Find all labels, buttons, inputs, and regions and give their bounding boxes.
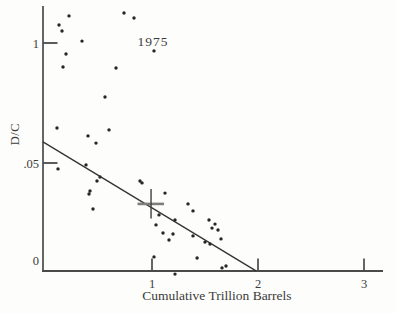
data-point	[86, 134, 89, 137]
data-point	[195, 256, 198, 259]
y-tick-label: 1	[33, 37, 39, 51]
data-point	[61, 65, 64, 68]
trend-line-segment	[43, 142, 256, 271]
data-point	[213, 222, 216, 225]
data-point	[220, 266, 223, 269]
data-point	[84, 163, 87, 166]
y-tick-label: 0	[33, 254, 39, 268]
scatter-plot: 123 1.050 1975 D/C Cumulative Trillion B…	[0, 0, 396, 313]
data-point	[88, 189, 91, 192]
annotation-1975: 1975	[138, 34, 169, 49]
y-tick-label: .05	[23, 157, 39, 171]
data-point	[224, 264, 227, 267]
y-axis-ticks: 1.050	[23, 37, 57, 269]
data-point	[152, 49, 155, 52]
x-tick-label: 3	[361, 277, 367, 291]
data-point	[122, 11, 125, 14]
data-point	[157, 213, 160, 216]
x-axis-ticks: 123	[149, 259, 367, 292]
data-point	[216, 228, 219, 231]
data-point	[80, 39, 83, 42]
chart-page: 123 1.050 1975 D/C Cumulative Trillion B…	[0, 0, 396, 313]
data-point	[219, 237, 222, 240]
data-point	[55, 126, 58, 129]
data-point	[163, 191, 166, 194]
data-point	[191, 209, 194, 212]
data-point	[91, 207, 94, 210]
trend-line	[43, 142, 256, 271]
data-point	[154, 223, 157, 226]
data-point	[167, 238, 170, 241]
axes	[42, 6, 383, 271]
data-point	[64, 52, 67, 55]
data-point	[171, 232, 174, 235]
y-axis-title: D/C	[8, 123, 22, 145]
data-point	[57, 23, 60, 26]
data-point	[186, 202, 189, 205]
data-point	[114, 66, 117, 69]
data-point	[56, 167, 59, 170]
data-point	[107, 128, 110, 131]
data-point	[191, 234, 194, 237]
data-point	[173, 272, 176, 275]
data-point	[207, 218, 210, 221]
data-point	[161, 231, 164, 234]
data-point	[210, 226, 213, 229]
data-point	[95, 179, 98, 182]
data-point	[132, 16, 135, 19]
scatter-points	[55, 11, 227, 276]
data-point	[103, 95, 106, 98]
x-axis-title: Cumulative Trillion Barrels	[142, 288, 291, 303]
data-point	[67, 14, 70, 17]
data-point	[87, 192, 90, 195]
data-point	[140, 181, 143, 184]
data-point	[94, 141, 97, 144]
data-point	[60, 29, 63, 32]
data-point	[152, 255, 155, 258]
